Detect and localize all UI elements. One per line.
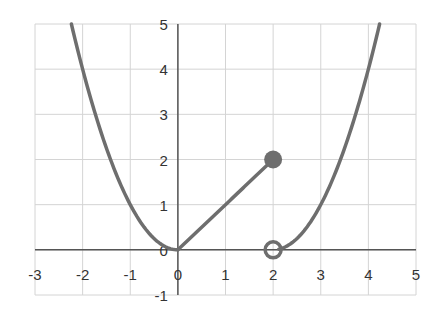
y-tick-label: -1 <box>155 287 168 304</box>
x-tick-label: 5 <box>412 266 420 283</box>
piecewise-function-chart: -3-2-1012345 -1012345 <box>0 0 444 313</box>
curve-piece-3 <box>279 24 380 249</box>
y-tick-label: 4 <box>160 61 168 78</box>
x-tick-label: -2 <box>76 266 89 283</box>
x-tick-label: -1 <box>124 266 137 283</box>
x-tick-labels: -3-2-1012345 <box>28 266 420 283</box>
curve-piece-1 <box>71 24 177 250</box>
y-tick-label: 2 <box>160 152 168 169</box>
x-tick-label: 4 <box>364 266 372 283</box>
x-tick-label: 1 <box>221 266 229 283</box>
x-tick-label: 2 <box>269 266 277 283</box>
y-tick-label: 1 <box>160 197 168 214</box>
closed-point-marker <box>264 151 282 169</box>
y-tick-label: 3 <box>160 106 168 123</box>
x-tick-label: -3 <box>28 266 41 283</box>
grid-lines <box>35 24 416 295</box>
x-tick-label: 3 <box>317 266 325 283</box>
x-tick-label: 0 <box>174 266 182 283</box>
y-tick-label: 5 <box>160 16 168 33</box>
